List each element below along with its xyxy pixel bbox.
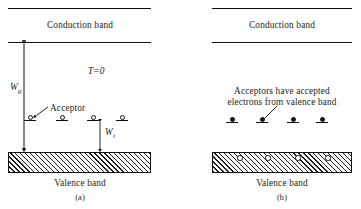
acceptor-level-mark [116, 120, 128, 121]
acceptor-level-mark [256, 122, 268, 123]
acceptor-filled-state [260, 117, 265, 122]
acceptor-empty-state [120, 115, 125, 120]
acceptor-leader-line-a [34, 107, 49, 118]
acceptor-level-mark [24, 120, 36, 121]
acceptor-level-mark [87, 120, 99, 121]
acceptor-empty-state [91, 115, 96, 120]
acceptor-annotation-leader-line-b [263, 106, 277, 120]
annotation-overlay [0, 0, 361, 209]
valence-band-hole [325, 155, 331, 161]
acceptor-level-mark [287, 122, 299, 123]
acceptor-filled-state [320, 117, 325, 122]
acceptor-filled-state [230, 117, 235, 122]
valence-band-hole [265, 155, 271, 161]
acceptor-level-mark [316, 122, 328, 123]
acceptor-level-mark [56, 120, 68, 121]
valence-band-hole [237, 155, 243, 161]
acceptor-level-mark [226, 122, 238, 123]
band-diagram-figure: Conduction band T=0 Wg Acceptor Wi Valen… [0, 0, 361, 209]
acceptor-filled-state [291, 117, 296, 122]
valence-band-hole [295, 155, 301, 161]
acceptor-empty-state [28, 115, 33, 120]
acceptor-empty-state [60, 115, 65, 120]
